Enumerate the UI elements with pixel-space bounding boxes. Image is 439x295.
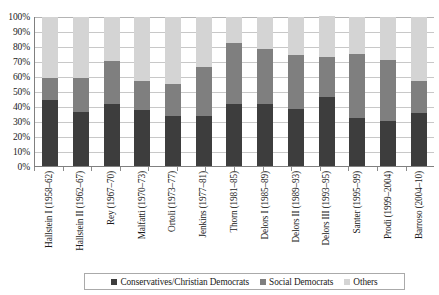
bar-stack[interactable] — [73, 17, 89, 166]
bar-segment[interactable] — [226, 104, 242, 165]
bar-segment[interactable] — [42, 78, 58, 100]
bar-group[interactable] — [96, 17, 127, 166]
legend: Conservatives/Christian DemocratsSocial … — [84, 273, 405, 290]
x-axis-label-slot: Hallstein I (1958–62) — [34, 171, 65, 267]
bar-segment[interactable] — [257, 49, 273, 104]
bar-segment[interactable] — [134, 110, 150, 165]
bar-segment[interactable] — [104, 61, 120, 104]
x-axis-tickmark — [91, 167, 92, 171]
bar-segment[interactable] — [411, 17, 427, 81]
legend-label: Social Democrats — [269, 277, 333, 287]
bar-stack[interactable] — [349, 17, 365, 166]
bar-segment[interactable] — [104, 17, 120, 62]
bar-stack[interactable] — [380, 17, 396, 166]
bar-stack[interactable] — [319, 17, 335, 166]
bar-segment[interactable] — [73, 112, 89, 166]
bar-segment[interactable] — [226, 43, 242, 104]
tick-slot — [348, 167, 377, 171]
bar-group[interactable] — [66, 17, 97, 166]
bar-segment[interactable] — [288, 55, 304, 109]
bar-segment[interactable] — [257, 104, 273, 165]
bar-segment[interactable] — [42, 17, 58, 78]
bar-group[interactable] — [219, 17, 250, 166]
bar-group[interactable] — [127, 17, 158, 166]
y-axis-tick-label: 40% — [13, 102, 30, 112]
bar-segment[interactable] — [288, 109, 304, 166]
x-axis-tickmark — [406, 167, 407, 171]
bar-segment[interactable] — [257, 17, 273, 50]
bar-group[interactable] — [373, 17, 404, 166]
legend-item[interactable]: Conservatives/Christian Democrats — [111, 277, 249, 287]
x-axis-tick-label: Hallstein II (1962–67) — [75, 171, 85, 251]
legend-item[interactable]: Others — [344, 277, 377, 287]
bar-group[interactable] — [281, 17, 312, 166]
legend-swatch-icon — [111, 279, 117, 285]
x-axis-label-slot: Delors II (1989–93) — [280, 171, 311, 267]
bar-stack[interactable] — [104, 17, 120, 166]
tick-slot — [34, 167, 63, 171]
bar-segment[interactable] — [349, 118, 365, 166]
x-axis-tickmark — [120, 167, 121, 171]
bar-segment[interactable] — [288, 17, 304, 56]
bar-segment[interactable] — [319, 57, 335, 97]
legend-swatch-icon — [260, 279, 266, 285]
bar-stack[interactable] — [257, 17, 273, 166]
bar-group[interactable] — [250, 17, 281, 166]
x-axis-label-slot: Santer (1995–99) — [342, 171, 373, 267]
bar-segment[interactable] — [380, 17, 396, 60]
bar-segment[interactable] — [165, 17, 181, 84]
legend-swatch-icon — [344, 279, 350, 285]
x-axis: Hallstein I (1958–62)Hallstein II (1962–… — [34, 171, 434, 267]
plot-area — [34, 17, 434, 167]
x-axis-tickmark — [205, 167, 206, 171]
bar-stack[interactable] — [134, 17, 150, 166]
x-axis-tick-label: Jenkins (1977–81) — [198, 171, 208, 237]
tick-slot — [91, 167, 120, 171]
bar-group[interactable] — [311, 17, 342, 166]
bar-segment[interactable] — [196, 116, 212, 165]
tick-slot — [120, 167, 149, 171]
bar-segment[interactable] — [42, 100, 58, 166]
bar-group[interactable] — [342, 17, 373, 166]
bar-segment[interactable] — [134, 81, 150, 111]
bar-segment[interactable] — [73, 17, 89, 78]
bar-stack[interactable] — [196, 17, 212, 166]
bar-stack[interactable] — [411, 17, 427, 166]
bars-layer — [35, 17, 434, 166]
bar-segment[interactable] — [349, 54, 365, 118]
bar-segment[interactable] — [380, 121, 396, 166]
bar-stack[interactable] — [165, 17, 181, 166]
bar-segment[interactable] — [380, 60, 396, 121]
bar-group[interactable] — [403, 17, 434, 166]
x-axis-tick-label: Rey (1967–70) — [106, 171, 116, 225]
bar-segment[interactable] — [411, 113, 427, 165]
bar-segment[interactable] — [165, 84, 181, 117]
bar-segment[interactable] — [134, 17, 150, 81]
legend-label: Conservatives/Christian Democrats — [120, 277, 249, 287]
bar-segment[interactable] — [349, 17, 365, 54]
x-axis-tick-label: Malfatti (1970–73) — [137, 171, 147, 239]
y-axis-tick-label: 80% — [13, 42, 30, 52]
bar-segment[interactable] — [319, 16, 335, 56]
bar-segment[interactable] — [226, 17, 242, 44]
y-axis-tick-label: 50% — [13, 87, 30, 97]
bar-group[interactable] — [188, 17, 219, 166]
bar-segment[interactable] — [104, 104, 120, 165]
tick-slot — [406, 167, 435, 171]
x-axis-tick-label: Barroso (2004–10) — [414, 171, 424, 239]
bar-segment[interactable] — [165, 116, 181, 165]
bar-segment[interactable] — [196, 17, 212, 68]
x-axis-tick-label: Delors III (1993–95) — [321, 171, 331, 245]
bar-segment[interactable] — [411, 81, 427, 114]
legend-item[interactable]: Social Democrats — [260, 277, 333, 287]
bar-segment[interactable] — [196, 67, 212, 116]
x-axis-tickmark — [320, 167, 321, 171]
bar-segment[interactable] — [73, 78, 89, 112]
bar-stack[interactable] — [226, 17, 242, 166]
bar-stack[interactable] — [288, 17, 304, 166]
bar-group[interactable] — [158, 17, 189, 166]
x-axis-tick-label: Thorn (1981–85) — [229, 171, 239, 233]
bar-segment[interactable] — [319, 97, 335, 166]
bar-stack[interactable] — [42, 17, 58, 166]
bar-group[interactable] — [35, 17, 66, 166]
